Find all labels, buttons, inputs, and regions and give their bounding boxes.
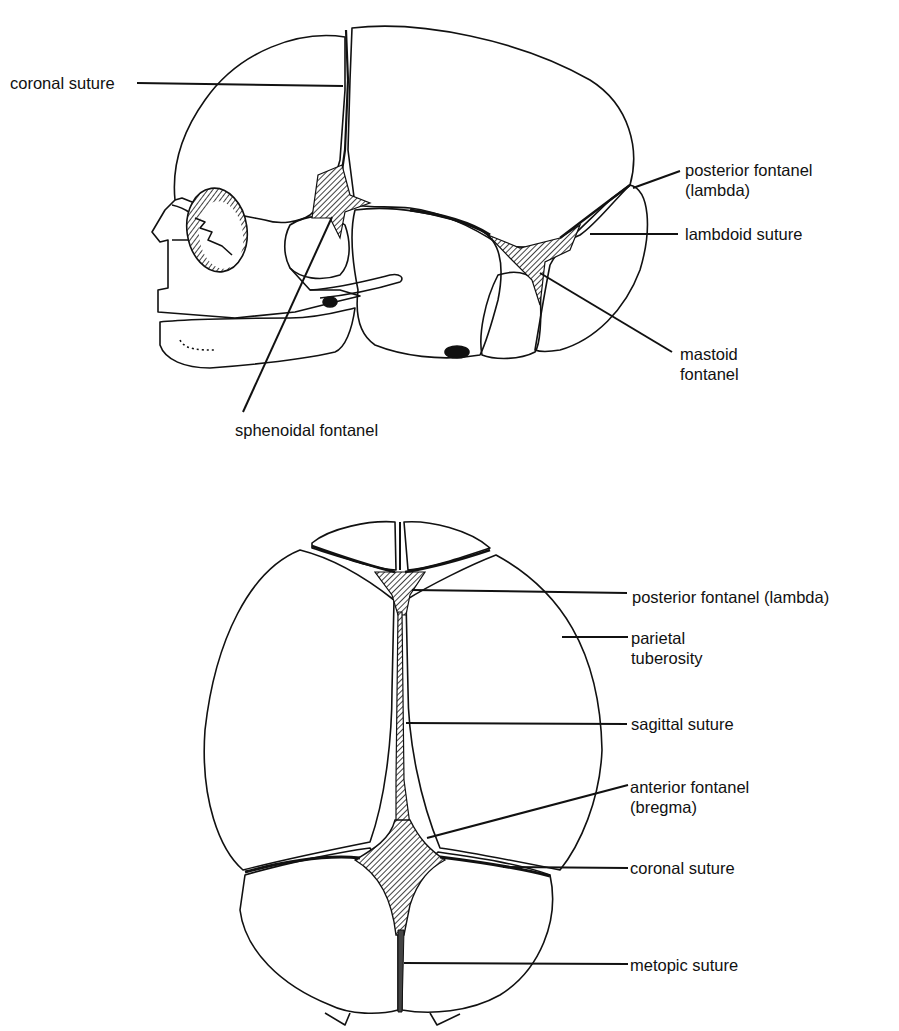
label-sphenoidal-fontanel: sphenoidal fontanel [235,420,378,440]
temporal-bone [352,208,501,357]
label-mastoid-fontanel: mastoid fontanel [680,344,739,384]
mastoid-bone [481,272,541,358]
sphenoidal-fontanel-area [312,165,370,238]
parietal-right [406,555,602,870]
label-line: parietal [631,628,703,648]
label-metopic-suture: metopic suture [630,955,738,975]
sagittal-suture-line [396,612,410,825]
label-line: anterior fontanel [630,777,749,797]
mastoid-fontanel-area [488,225,580,305]
lateral-skull [152,26,647,368]
label-posterior-fontanel-superior: posterior fontanel (lambda) [632,587,829,607]
label-lambdoid-suture: lambdoid suture [685,224,802,244]
label-coronal-suture-superior: coronal suture [630,858,735,878]
label-line: mastoid [680,344,739,364]
label-posterior-fontanel-lateral: posterior fontanel (lambda) [685,160,813,200]
metopic-suture-line [398,930,404,1012]
diagram-artwork [0,0,899,1031]
parietal-left [204,550,394,870]
label-line: posterior fontanel [685,160,813,180]
label-coronal-suture-lateral: coronal suture [10,73,115,93]
label-line: fontanel [680,364,739,384]
label-line: (bregma) [630,797,749,817]
label-anterior-fontanel: anterior fontanel (bregma) [630,777,749,817]
label-line: tuberosity [631,648,703,668]
occipital-left [312,522,396,570]
label-line: (lambda) [685,180,813,200]
mandible [160,308,355,368]
label-sagittal-suture: sagittal suture [631,714,734,734]
label-parietal-tuberosity: parietal tuberosity [631,628,703,668]
